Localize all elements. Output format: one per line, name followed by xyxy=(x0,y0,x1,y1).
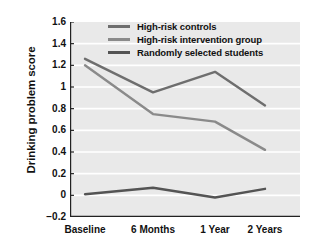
y-tick-label: 0 xyxy=(32,190,66,200)
y-tick-label: 0.2 xyxy=(32,169,66,179)
y-tick-label: 1.4 xyxy=(32,39,66,49)
legend-line-icon xyxy=(108,51,130,54)
chart-legend: High-risk controlsHigh-risk intervention… xyxy=(108,20,298,59)
y-tick-label: 1 xyxy=(32,82,66,92)
legend-line-icon xyxy=(108,38,130,41)
y-tick-label: 0.8 xyxy=(32,104,66,114)
y-tick-label: −0.2 xyxy=(32,212,66,222)
legend-label: High-risk intervention group xyxy=(137,34,262,45)
legend-item: Randomly selected students xyxy=(108,46,298,59)
series-line-1 xyxy=(85,65,265,150)
x-tick-label: 6 Months xyxy=(131,224,175,235)
y-tick-label: 0.6 xyxy=(32,125,66,135)
chart-figure: Drinking problem score 1.61.41.210.80.60… xyxy=(0,0,309,252)
x-tick-label: 1 Year xyxy=(200,224,229,235)
legend-label: High-risk controls xyxy=(137,21,217,32)
x-tick-label: Baseline xyxy=(64,224,105,235)
y-tick-label: 1.6 xyxy=(32,17,66,27)
y-axis-tick-labels: 1.61.41.210.80.60.40.20−0.2 xyxy=(28,0,66,252)
legend-line-icon xyxy=(108,25,130,28)
legend-label: Randomly selected students xyxy=(137,47,263,58)
y-tick-label: 1.2 xyxy=(32,60,66,70)
x-tick-label: 2 Years xyxy=(248,224,283,235)
y-tick-label: 0.4 xyxy=(32,147,66,157)
legend-item: High-risk controls xyxy=(108,20,298,33)
legend-item: High-risk intervention group xyxy=(108,33,298,46)
